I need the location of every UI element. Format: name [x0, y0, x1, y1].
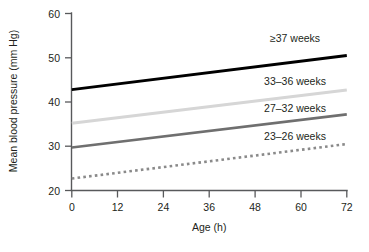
x-tick-label-36: 36 — [203, 201, 215, 213]
chart-figure: 60 50 40 30 20 0 12 24 36 48 60 72 Age (… — [0, 0, 369, 252]
x-tick-label-12: 12 — [112, 201, 124, 213]
y-tick-label-50: 50 — [48, 52, 60, 64]
x-tick-label-24: 24 — [158, 201, 170, 213]
series-line-23-26 — [72, 144, 347, 179]
x-tick-label-60: 60 — [295, 201, 307, 213]
series-label-ge37: ≥37 weeks — [270, 32, 320, 44]
y-tick-label-40: 40 — [48, 96, 60, 108]
series-lines — [72, 56, 347, 179]
y-tick-label-30: 30 — [48, 140, 60, 152]
y-tick-label-20: 20 — [48, 185, 60, 197]
line-chart: 60 50 40 30 20 0 12 24 36 48 60 72 Age (… — [0, 0, 369, 252]
y-tick-label-60: 60 — [48, 8, 60, 20]
series-label-23-26: 23–26 weeks — [264, 130, 326, 142]
x-tick-label-0: 0 — [69, 201, 75, 213]
x-tick-label-48: 48 — [249, 201, 261, 213]
series-label-27-32: 27–32 weeks — [264, 102, 326, 114]
series-label-33-36: 33–36 weeks — [264, 75, 326, 87]
y-axis-title: Mean blood pressure (mm Hg) — [7, 30, 19, 172]
x-axis-title: Age (h) — [192, 221, 226, 233]
x-tick-label-72: 72 — [341, 201, 353, 213]
